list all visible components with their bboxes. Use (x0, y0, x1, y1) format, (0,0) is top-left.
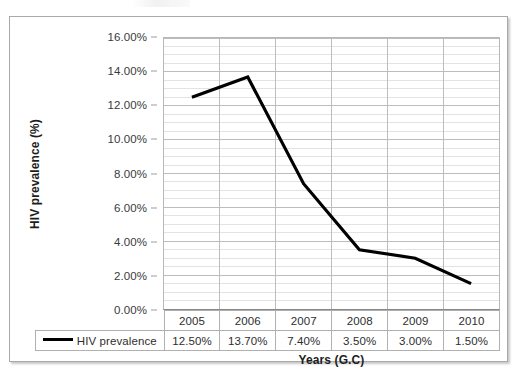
y-axis-tick-12.00: 12.00% (107, 99, 147, 111)
y-axis-tick-mark (151, 241, 157, 242)
y-axis-tick-8.00: 8.00% (114, 168, 147, 180)
x-axis-title: Years (G.C) (163, 353, 500, 367)
table-cell-category-2007: 2007 (276, 311, 332, 331)
y-axis-tick-mark (151, 275, 157, 276)
table-row-series: HIV prevalence12.50%13.70%7.40%3.50%3.00… (36, 331, 500, 351)
y-axis-title-label: HIV prevalence (%) (28, 119, 42, 229)
scan-artifact (130, 0, 190, 7)
y-axis-tick-mark (151, 71, 157, 72)
y-axis-title: HIV prevalence (%) (22, 37, 48, 310)
table-cell-value-2007: 7.40% (276, 331, 332, 351)
y-axis-tick-mark (151, 139, 157, 140)
table-cell-value-2009: 3.00% (388, 331, 444, 351)
y-axis-tick-16.00: 16.00% (107, 31, 147, 43)
plot-area (163, 37, 500, 310)
table-cell-category-2005: 2005 (164, 311, 220, 331)
table-cell-value-2010: 1.50% (444, 331, 500, 351)
y-axis-tick-mark (151, 37, 157, 38)
legend-label: HIV prevalence (77, 335, 157, 347)
legend-entry-hiv-prevalence[interactable]: HIV prevalence (36, 331, 165, 351)
table-cell-value-2006: 13.70% (220, 331, 276, 351)
table-cell-category-2009: 2009 (388, 311, 444, 331)
y-axis-tick-labels: 0.00%2.00%4.00%6.00%8.00%10.00%12.00%14.… (50, 37, 157, 310)
series-polyline (192, 77, 471, 284)
table-corner-blank (36, 311, 165, 331)
table-cell-value-2005: 12.50% (164, 331, 220, 351)
y-axis-tick-6.00: 6.00% (114, 202, 147, 214)
y-axis-tick-4.00: 4.00% (114, 236, 147, 248)
table-cell-category-2010: 2010 (444, 311, 500, 331)
table-cell-category-2008: 2008 (332, 311, 388, 331)
y-axis-tick-10.00: 10.00% (107, 133, 147, 145)
table-row-categories: 200520062007200820092010 (36, 311, 500, 331)
table-cell-category-2006: 2006 (220, 311, 276, 331)
y-axis-tick-14.00: 14.00% (107, 65, 147, 77)
data-table: 200520062007200820092010 HIV prevalence1… (35, 310, 500, 351)
legend-line-swatch (43, 338, 73, 341)
series-line-hiv-prevalence (164, 38, 499, 309)
y-axis-tick-mark (151, 207, 157, 208)
table-cell-value-2008: 3.50% (332, 331, 388, 351)
y-axis-tick-mark (151, 173, 157, 174)
chart-frame: HIV prevalence (%) 0.00%2.00%4.00%6.00%8… (9, 16, 508, 362)
y-axis-tick-2.00: 2.00% (114, 270, 147, 282)
y-axis-tick-mark (151, 105, 157, 106)
